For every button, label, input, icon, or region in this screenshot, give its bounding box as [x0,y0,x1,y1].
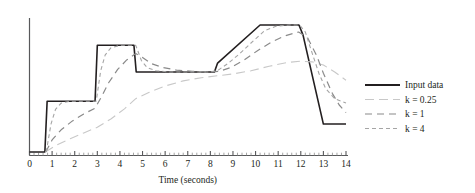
legend-item: k = 1 [365,109,425,119]
x-axis-tick-label: 14 [341,159,351,169]
chart-plot: 01234567891011121314Time (seconds)Input … [0,0,475,193]
series-line-2 [46,32,346,152]
legend-label-0: Input data [405,80,444,90]
x-axis-tick-label: 6 [163,159,168,169]
x-axis-title: Time (seconds) [159,175,218,186]
series-line-0 [30,25,347,152]
legend-label-2: k = 1 [405,109,425,119]
x-axis-tick-label: 13 [319,159,329,169]
x-axis-tick-label: 8 [208,159,213,169]
x-axis-tick-label: 7 [185,159,190,169]
x-axis-tick-label: 11 [274,159,283,169]
series-line-3 [46,25,346,152]
series-line-1 [45,61,346,152]
x-axis-tick-label: 1 [50,159,55,169]
legend-item: k = 4 [365,124,425,134]
legend-item: Input data [365,80,444,90]
legend-label-3: k = 4 [405,124,425,134]
x-axis-tick-label: 5 [140,159,145,169]
x-axis-tick-label: 0 [27,159,32,169]
x-axis-tick-label: 2 [72,159,77,169]
x-axis-tick-label: 3 [95,159,100,169]
chart-legend: Input datak = 0.25k = 1k = 4 [365,80,444,133]
x-axis-tick-label: 4 [118,159,123,169]
series-group [30,25,347,152]
chart-figure: 01234567891011121314Time (seconds)Input … [0,0,475,193]
x-axis-tick-label: 12 [296,159,306,169]
x-axis-tick-label: 10 [251,159,261,169]
x-axis-tick-label: 9 [231,159,236,169]
legend-item: k = 0.25 [365,95,437,105]
legend-label-1: k = 0.25 [405,95,437,105]
